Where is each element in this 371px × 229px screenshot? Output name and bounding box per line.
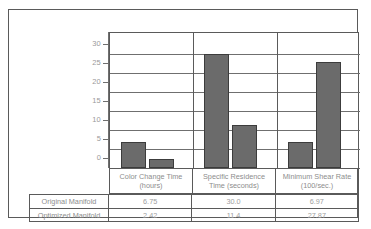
category-separator-2 (277, 33, 278, 169)
plot-area (109, 32, 359, 168)
y-tick-label-30: 30 (75, 39, 101, 48)
table-row-label-0: Original Manifold (30, 195, 109, 208)
category-header-row: Color Change Time(hours)Specific Residen… (109, 168, 359, 194)
category-header-label: Minimum Shear Rate(100/sec.) (283, 172, 352, 190)
bar-original-2 (288, 142, 313, 168)
bar-original-0 (121, 142, 146, 168)
table-cell-r0-c2: 6.97 (276, 195, 358, 208)
category-separator-1 (193, 33, 194, 169)
data-table: Original Manifold6.7530.06.97Optimized M… (29, 194, 359, 222)
category-header-0: Color Change Time(hours) (110, 169, 193, 193)
gridline-30 (110, 54, 360, 55)
table-row: Optimized Manifold2.4211.427.87 (30, 209, 358, 222)
y-tick-label-5: 5 (75, 134, 101, 143)
category-header-label: Specific ResidenceTime (seconds) (203, 172, 265, 190)
y-tick-30 (103, 44, 109, 45)
chart-frame: 051015202530 Color Change Time(hours)Spe… (8, 9, 358, 218)
y-tick-label-20: 20 (75, 77, 101, 86)
y-tick-5 (103, 139, 109, 140)
y-tick-25 (103, 63, 109, 64)
y-tick-label-10: 10 (75, 115, 101, 124)
y-tick-15 (103, 101, 109, 102)
table-cell-r1-c0: 2.42 (109, 209, 192, 222)
y-tick-label-25: 25 (75, 58, 101, 67)
category-header-2: Minimum Shear Rate(100/sec.) (276, 169, 358, 193)
bar-original-1 (204, 54, 229, 168)
y-tick-label-15: 15 (75, 96, 101, 105)
y-tick-10 (103, 120, 109, 121)
y-tick-label-0: 0 (75, 153, 101, 162)
table-cell-r0-c0: 6.75 (109, 195, 192, 208)
table-row-label-1: Optimized Manifold (30, 209, 109, 222)
bar-optimized-1 (232, 125, 257, 168)
table-row: Original Manifold6.7530.06.97 (30, 195, 358, 209)
category-header-label: Color Change Time(hours) (120, 172, 183, 190)
y-tick-20 (103, 82, 109, 83)
table-cell-r1-c1: 11.4 (192, 209, 275, 222)
bar-optimized-0 (149, 159, 174, 168)
bar-optimized-2 (316, 62, 341, 168)
y-tick-0 (103, 158, 109, 159)
category-header-1: Specific ResidenceTime (seconds) (193, 169, 276, 193)
table-cell-r1-c2: 27.87 (276, 209, 358, 222)
table-cell-r0-c1: 30.0 (192, 195, 275, 208)
